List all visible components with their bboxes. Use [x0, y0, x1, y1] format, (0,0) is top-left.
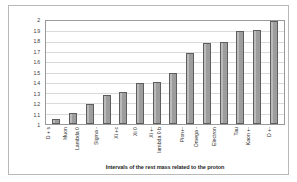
x-axis-tick-label: Tau — [239, 117, 245, 126]
x-axis-tick-label: Sigma - — [99, 107, 105, 126]
bar-slot — [232, 21, 249, 124]
x-label-slot: D +- — [266, 126, 283, 162]
bar-slot — [182, 21, 199, 124]
x-label-slot: Xi +c — [114, 126, 131, 162]
bar-slot — [48, 21, 65, 124]
bar[interactable] — [270, 21, 278, 124]
y-axis-tick-label: 1.6 — [33, 59, 40, 65]
x-axis-tick-label: Lambda 0 — [80, 102, 86, 126]
y-axis-tick-label: 1.5 — [33, 70, 40, 76]
x-axis-tick-label: lambda 0 b — [163, 99, 169, 126]
x-axis-tick-label: Xi 0 — [137, 116, 143, 126]
y-axis-tick-label: 1.9 — [33, 28, 40, 34]
x-axis-tick-label: Kaon +- — [251, 107, 257, 126]
y-axis-tick-label: 1.8 — [33, 38, 40, 44]
y-axis-tick-label: 2 — [37, 17, 40, 23]
x-label-slot: Xi 0 — [131, 126, 148, 162]
x-axis-tick-label: D + s — [51, 113, 57, 126]
bar-slot — [115, 21, 132, 124]
x-axis-title: Intervals of the rest mass related to th… — [45, 164, 285, 170]
x-axis-tick-label: Omega - — [199, 105, 205, 126]
y-axis-tick-label: 1.7 — [33, 49, 40, 55]
y-axis-tick-label: 1.4 — [33, 80, 40, 86]
x-label-slot: Sigma - — [98, 126, 115, 162]
bar-slot — [132, 21, 149, 124]
x-label-slot: Kaon +- — [249, 126, 266, 162]
chart-frame: 21.91.81.71.61.51.41.31.21.11 D + sMuonL… — [8, 5, 289, 175]
x-axis-labels: D + sMuonLambda 0Sigma -Xi +cXi 0Xi +-la… — [45, 126, 285, 162]
bar[interactable] — [86, 104, 94, 124]
x-axis-tick-label: Xi +c — [119, 113, 125, 126]
y-axis-tick-label: 1.1 — [33, 112, 40, 118]
x-axis-tick-label: Muon — [68, 112, 74, 126]
bar[interactable] — [169, 73, 177, 125]
bar-slot — [265, 21, 282, 124]
x-label-slot: Electron — [216, 126, 233, 162]
bar[interactable] — [236, 31, 244, 124]
y-axis-tick-label: 1.3 — [33, 91, 40, 97]
x-axis-tick-label: D +- — [272, 115, 278, 126]
y-axis: 21.91.81.71.61.51.41.31.21.11 — [9, 20, 43, 125]
x-axis-tick-label: Electron — [217, 106, 223, 126]
x-axis-tick-label: Xi +- — [153, 114, 159, 126]
x-axis-tick-label: Pion+- — [185, 110, 191, 126]
y-axis-tick-label: 1 — [37, 122, 40, 128]
y-axis-tick-label: 1.2 — [33, 101, 40, 107]
